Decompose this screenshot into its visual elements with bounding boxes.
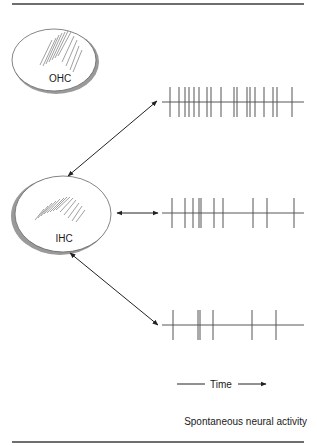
arrow-ihc-to-low-rate <box>70 253 158 325</box>
top-rule <box>12 3 304 5</box>
ohc-label: OHC <box>49 73 71 84</box>
spike-train-low-rate <box>162 310 304 340</box>
spike-train-medium-rate <box>162 198 304 228</box>
time-axis-label: Time <box>210 379 232 390</box>
arrow-ihc-to-high-rate <box>68 101 157 176</box>
bottom-rule <box>12 441 304 443</box>
spike-train-high-rate <box>162 87 304 117</box>
ihc-cell: IHC <box>11 176 111 255</box>
neural-activity-diagram: OHC IHC Time Spontaneo <box>0 0 317 446</box>
figure-caption: Spontaneous neural activity <box>184 416 307 427</box>
ohc-cell: OHC <box>12 29 99 94</box>
ihc-label: IHC <box>55 233 72 244</box>
time-axis: Time <box>177 379 266 390</box>
spike-trains <box>162 87 304 340</box>
